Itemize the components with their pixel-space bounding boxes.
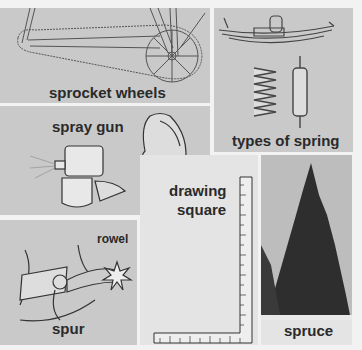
panel-spur: rowel spur bbox=[0, 220, 137, 345]
label-drawing: drawing bbox=[169, 182, 227, 199]
label-types-of-spring: types of spring bbox=[232, 132, 340, 149]
label-spur: spur bbox=[52, 320, 85, 337]
label-square: square bbox=[177, 201, 226, 218]
spruce-tree-photo bbox=[261, 155, 352, 345]
panel-types-of-spring: types of spring bbox=[214, 8, 353, 152]
label-spruce: spruce bbox=[284, 322, 333, 339]
panel-sprocket-wheels: sprocket wheels bbox=[0, 8, 210, 103]
panel-spruce: spruce bbox=[261, 155, 352, 345]
label-rowel: rowel bbox=[97, 232, 128, 246]
panel-drawing-square: drawing square bbox=[140, 155, 258, 345]
label-spray-gun: spray gun bbox=[52, 118, 124, 135]
label-sprocket-wheels: sprocket wheels bbox=[49, 84, 166, 101]
springs-illustration bbox=[214, 8, 353, 152]
